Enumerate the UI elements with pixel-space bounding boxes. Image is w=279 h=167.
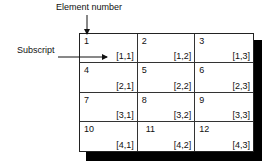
annotation-arrows — [0, 0, 279, 167]
